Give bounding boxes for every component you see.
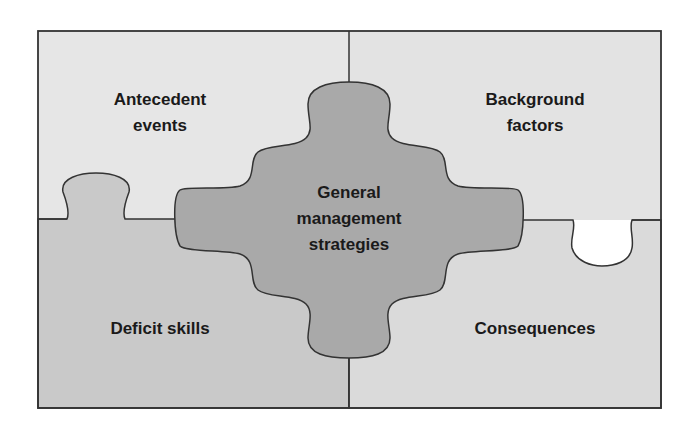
- label-background-factors: Background factors: [470, 87, 600, 139]
- label-deficit-skills: Deficit skills: [90, 316, 230, 342]
- label-general-management-strategies: General management strategies: [284, 180, 414, 258]
- label-antecedent-events: Antecedent events: [95, 87, 225, 139]
- label-consequences: Consequences: [460, 316, 610, 342]
